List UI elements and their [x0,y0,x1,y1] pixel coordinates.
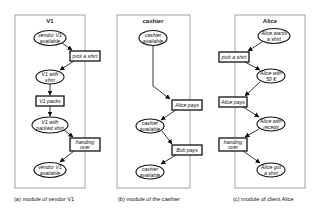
caption: (b) module of the cashier [118,196,180,202]
module-title: V1 [46,18,54,24]
svg-text:receipt: receipt [263,124,279,130]
arc [245,62,260,70]
svg-text:a shirt: a shirt [267,36,282,42]
state-cashier-available: cashier available [139,31,167,46]
transition-handing-over: handing over [219,138,247,151]
state-vendor-available: vendor V1 available [34,31,66,46]
svg-text:Alice pays: Alice pays [174,102,199,108]
arc [162,131,172,144]
arc [161,155,176,164]
state-alice-with-50: Alice with 50 € [257,69,285,83]
state-vendor-available-end: vendor V1 available [34,163,66,178]
transition-pick-a-shirt: pick a shirt [219,52,249,62]
transition-bob-pays: Bob pays [172,145,202,155]
svg-text:over: over [80,144,90,150]
module-vendor-v1: V1 vendor V1 available pick a shirt V1 w… [14,15,100,202]
caption: (c) module of client Alice [233,196,294,202]
transition-pick-a-shirt: pick a shirt [70,51,100,61]
svg-text:available: available [140,172,161,178]
arc [161,110,176,120]
transition-v1-packs: V1 packs [36,96,64,106]
caption: (a) module of vendor V1 [14,196,74,202]
petri-net-diagram: V1 vendor V1 available pick a shirt V1 w… [0,0,320,214]
state-alice-with-receipt: Alice with receipt [257,117,285,131]
svg-text:pick a shirt: pick a shirt [221,54,247,60]
module-title: cashier [142,18,164,24]
arc [243,107,259,117]
svg-text:Bob pays: Bob pays [176,147,198,153]
state-cashier-available-end: cashier available [136,165,164,179]
svg-text:Alice pays: Alice pays [220,99,245,105]
state-alice-got-shirt: Alice got a shirt [257,163,285,177]
module-client-alice: Alice Alice wants a shirt pick a shirt A… [219,15,305,202]
svg-text:over: over [228,144,238,150]
svg-text:available: available [40,38,61,44]
arc [248,42,262,51]
svg-text:V1 packs: V1 packs [39,98,61,104]
module-cashier: cashier cashier available Alice pays cas… [117,15,202,202]
module-title: Alice [263,18,278,24]
arc [245,82,260,96]
arc [153,46,170,100]
svg-text:pick a shirt: pick a shirt [72,53,98,59]
svg-text:50 €: 50 € [266,76,277,82]
svg-text:available: available [40,170,61,176]
arc [64,130,73,137]
arc [60,151,74,162]
state-cashier-available-mid: cashier available [136,119,164,133]
transition-alice-pays: Alice pays [172,100,202,110]
svg-text:packed shirt: packed shirt [35,125,65,131]
transition-alice-pays: Alice pays [219,97,247,107]
state-alice-wants-shirt: Alice wants a shirt [258,29,290,44]
arc [243,151,260,163]
arc [60,61,74,70]
arc [245,129,259,137]
state-v1-with-shirt: V1 with shirt [36,70,64,84]
arc [62,43,72,50]
svg-text:available: available [140,126,161,132]
svg-text:available: available [143,38,164,44]
transition-handing-over: handing over [70,138,100,151]
state-v1-packed-shirt: V1 with packed shirt [32,117,68,133]
svg-text:shirt: shirt [45,77,55,83]
svg-text:a shirt: a shirt [264,170,279,176]
